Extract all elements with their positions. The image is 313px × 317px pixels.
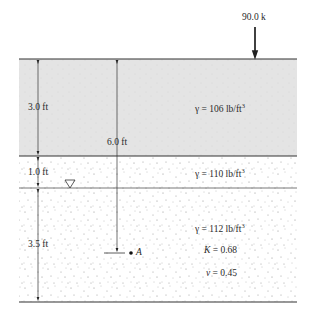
layer-3-k-value: K = 0.68: [204, 246, 237, 256]
layer-3-unit-weight: γ = 112 lb/ft3: [195, 223, 245, 235]
depth-to-a-label: 6.0 ft: [107, 138, 127, 148]
layer-2-thickness-label: 1.0 ft: [28, 168, 48, 178]
layer-1-thickness-label: 3.0 ft: [28, 103, 48, 113]
layer-2-unit-weight: γ = 110 lb/ft3: [195, 168, 245, 180]
point-a-label: A: [136, 248, 142, 258]
load-label: 90.0 k: [242, 13, 266, 23]
layer-3-fill: [19, 188, 297, 302]
layer-2-fill: [19, 156, 297, 188]
layer-3-thickness-label: 3.5 ft: [28, 240, 48, 250]
layer-3-poisson-ratio: ν = 0.45: [206, 269, 237, 279]
point-a-marker: [129, 251, 133, 255]
layer-1-unit-weight: γ = 106 lb/ft3: [195, 103, 245, 115]
layer-1-fill: [19, 59, 297, 156]
soil-profile-diagram: [0, 0, 313, 317]
